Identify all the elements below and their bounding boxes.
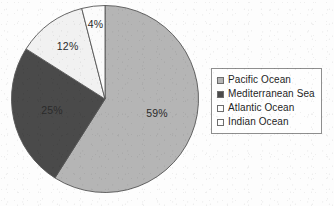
legend-item-mediterranean-sea[interactable]: Mediterranean Sea [217,87,316,101]
pie-chart: 59% 25% 12% 4% [10,4,200,194]
legend-label-indian-ocean: Indian Ocean [228,116,289,128]
legend-swatch-icon-mediterranean-sea [217,91,224,98]
legend-label-pacific-ocean: Pacific Ocean [228,74,291,86]
legend-item-atlantic-ocean[interactable]: Atlantic Ocean [217,101,316,115]
legend-label-atlantic-ocean: Atlantic Ocean [228,102,294,114]
chart-legend: Pacific Ocean Mediterranean Sea Atlantic… [211,68,322,134]
pie-label-indian-ocean: 4% [88,18,104,30]
legend-swatch-icon-indian-ocean [217,119,224,126]
legend-label-mediterranean-sea: Mediterranean Sea [228,88,315,100]
pie-chart-figure: 59% 25% 12% 4% Pacific Ocean Mediterrane… [0,0,334,206]
pie-label-pacific-ocean: 59% [146,107,168,119]
legend-swatch-icon-atlantic-ocean [217,105,224,112]
pie-label-mediterranean-sea: 25% [41,104,63,116]
legend-item-pacific-ocean[interactable]: Pacific Ocean [217,73,316,87]
pie-label-atlantic-ocean: 12% [57,40,79,52]
pie-chart-svg: 59% 25% 12% 4% [10,4,200,194]
legend-swatch-icon-pacific-ocean [217,77,224,84]
legend-item-indian-ocean[interactable]: Indian Ocean [217,115,316,129]
